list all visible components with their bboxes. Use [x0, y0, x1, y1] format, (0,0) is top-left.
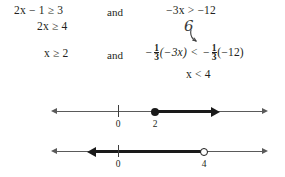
equation-line-1-right: −3x > −12 — [166, 5, 216, 17]
numberline-2-tick-0 — [118, 145, 119, 157]
equation-line-3-right: − 1 3 (−3x) < − 1 3 (−12) — [144, 45, 244, 61]
numberline-1: 0 2 — [0, 100, 285, 134]
conjunction-and-row-3: and — [107, 49, 123, 61]
numberline-1-tick-0-label: 0 — [111, 120, 125, 130]
handwritten-six-annotation: 6 — [184, 19, 210, 45]
lhs-parenthetical: (−3x) — [160, 47, 187, 59]
lhs-fraction-numerator: 1 — [154, 45, 159, 52]
conjunction-and-row-1: and — [107, 6, 123, 18]
rhs-parenthetical: (−12) — [217, 47, 244, 59]
lhs-negative-sign: − — [144, 47, 154, 59]
equation-line-1-left-text: 2x − 1 ≥ 3 — [14, 4, 63, 16]
equation-line-2-left-text: 2x ≥ 4 — [37, 20, 68, 32]
rhs-fraction-denominator: 3 — [212, 54, 217, 61]
equation-line-2-left: 2x ≥ 4 — [37, 21, 68, 33]
numberline-1-endpoint-closed-circle — [151, 108, 159, 116]
numberline-1-left-arrow-icon — [51, 108, 57, 114]
numberline-2-endpoint-open-circle — [200, 148, 208, 156]
annotation-arrow-icon — [189, 29, 207, 45]
relation-less-than: < — [187, 47, 202, 59]
equation-line-4-right: x < 4 — [186, 69, 211, 81]
numberline-2-right-arrow-icon — [262, 148, 268, 154]
lhs-fraction-one-third: 1 3 — [154, 45, 159, 61]
equation-line-4-right-text: x < 4 — [186, 68, 211, 80]
equation-line-3-left-text: x ≥ 2 — [44, 47, 69, 59]
worksheet-canvas: 2x − 1 ≥ 3 and −3x > −12 2x ≥ 4 6 x ≥ 2 … — [0, 0, 285, 177]
numberline-2: 0 4 — [0, 140, 285, 174]
equation-line-3-left: x ≥ 2 — [44, 48, 69, 60]
numberline-2-tick-4-label: 4 — [197, 160, 211, 170]
conjunction-and-row-1-text: and — [107, 6, 123, 18]
rhs-fraction-one-third: 1 3 — [212, 45, 217, 61]
numberline-1-right-arrow-icon — [262, 108, 268, 114]
numberline-2-left-arrow-icon — [51, 148, 57, 154]
numberline-2-solution-ray — [96, 150, 204, 153]
numberline-2-tick-0-label: 0 — [111, 160, 125, 170]
lhs-fraction-denominator: 3 — [154, 54, 159, 61]
equation-line-1-left: 2x − 1 ≥ 3 — [14, 5, 63, 17]
numberline-1-tick-2-label: 2 — [148, 120, 162, 130]
numberline-1-tick-0 — [118, 105, 119, 117]
conjunction-and-row-3-text: and — [107, 49, 123, 61]
numberline-1-solution-ray — [157, 110, 213, 113]
numberline-2-ray-arrow-icon — [87, 147, 96, 157]
numberline-1-ray-arrow-icon — [211, 107, 220, 117]
rhs-fraction-numerator: 1 — [212, 45, 217, 52]
rhs-negative-sign: − — [202, 47, 212, 59]
equation-line-1-right-text: −3x > −12 — [166, 4, 216, 16]
